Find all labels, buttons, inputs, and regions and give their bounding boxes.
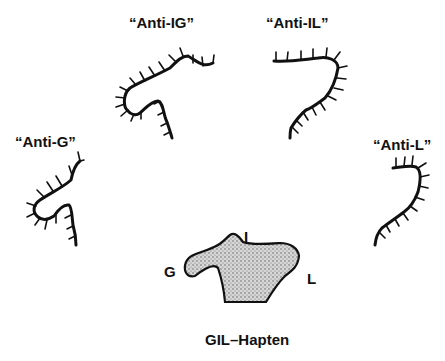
site-label-g: G	[164, 263, 176, 280]
anti-l-site-curve	[375, 156, 429, 245]
anti-ig-label: “Anti-IG”	[129, 14, 194, 31]
anti-ig-site-curve	[116, 48, 214, 138]
site-label-l: L	[307, 270, 316, 287]
anti-l-label: “Anti-L”	[373, 136, 431, 153]
anti-il-site-curve	[274, 48, 347, 138]
diagram-canvas	[0, 0, 445, 361]
anti-il-label: “Anti-IL”	[266, 14, 328, 31]
gil-hapten-shape	[185, 234, 299, 302]
anti-g-site-curve	[27, 152, 84, 245]
anti-g-label: “Anti-G”	[15, 133, 76, 150]
hapten-label: GIL–Hapten	[205, 331, 289, 348]
site-label-i: I	[244, 228, 248, 245]
antibody-hapten-diagram: “Anti-IG” “Anti-IL” “Anti-G” “Anti-L” I …	[0, 0, 445, 361]
